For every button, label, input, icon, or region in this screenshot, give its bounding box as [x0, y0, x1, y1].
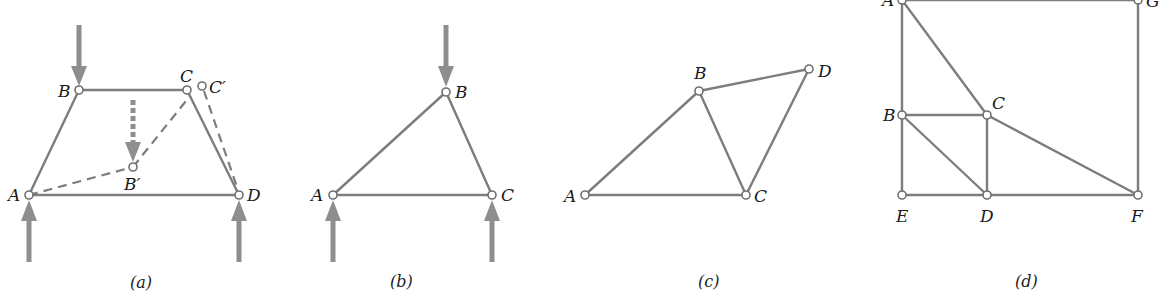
reaction-arrow-up-c — [484, 200, 500, 262]
caption-b: (b) — [390, 272, 413, 291]
member-cd — [187, 90, 239, 195]
joint-d — [805, 65, 813, 73]
panel-c: A B C D (c) — [562, 61, 832, 291]
label-b: B — [693, 63, 707, 83]
joint-f — [1134, 191, 1142, 199]
member-c-prime-d-dashed — [204, 91, 238, 190]
joint-a — [898, 0, 906, 4]
joint-d — [235, 191, 243, 199]
joint-b — [442, 88, 450, 96]
member-bd — [699, 69, 809, 91]
truss-figure: A B C C′ D B′ (a) A B C (b) — [0, 0, 1163, 304]
label-d: D — [979, 206, 994, 226]
label-f: F — [1130, 206, 1144, 226]
joint-b-prime — [129, 163, 137, 171]
joint-d — [983, 191, 991, 199]
label-b: B — [882, 105, 896, 125]
joint-b — [898, 111, 906, 119]
label-g: G — [1146, 0, 1160, 11]
load-arrow-down-b — [71, 25, 87, 86]
joint-c — [488, 191, 496, 199]
label-a: A — [309, 185, 323, 205]
member-bd — [902, 115, 987, 195]
label-a: A — [562, 186, 576, 206]
joint-a — [581, 191, 589, 199]
load-arrow-down-b-prime-dashed — [125, 100, 141, 162]
joint-a — [329, 191, 337, 199]
member-ab — [333, 92, 446, 195]
joint-c — [983, 111, 991, 119]
member-ac — [902, 0, 987, 115]
member-bc — [446, 92, 492, 195]
caption-d: (d) — [1015, 272, 1038, 291]
reaction-arrow-up-a — [325, 200, 341, 262]
member-b-prime-c-dashed — [133, 96, 190, 167]
load-arrow-down-b — [438, 25, 454, 87]
label-c: C — [501, 185, 514, 205]
label-b: B — [57, 81, 71, 101]
label-d: D — [817, 61, 832, 81]
label-c: C — [992, 93, 1005, 113]
label-c-prime: C′ — [209, 77, 226, 97]
member-ab — [29, 90, 79, 195]
label-b: B — [454, 82, 468, 102]
label-b-prime: B′ — [123, 174, 140, 194]
label-d: D — [246, 185, 261, 205]
joint-b — [695, 87, 703, 95]
joint-e — [898, 191, 906, 199]
caption-a: (a) — [130, 273, 152, 292]
label-c: C — [754, 186, 767, 206]
joint-a — [25, 191, 33, 199]
panel-b: A B C (b) — [309, 25, 514, 291]
caption-c: (c) — [698, 272, 719, 291]
member-cd — [746, 69, 809, 195]
panel-d: A G B C E D F (d) — [880, 0, 1160, 291]
reaction-arrow-up-a — [21, 200, 37, 262]
joint-c — [742, 191, 750, 199]
label-a: A — [880, 0, 894, 10]
joint-b — [75, 86, 83, 94]
label-e: E — [895, 206, 909, 226]
member-ab-prime-dashed — [29, 167, 133, 195]
member-cf — [987, 115, 1138, 195]
panel-a: A B C C′ D B′ (a) — [6, 25, 261, 292]
joint-g — [1134, 0, 1142, 4]
member-ab — [585, 91, 699, 195]
reaction-arrow-up-d — [231, 200, 247, 262]
member-bc — [699, 91, 746, 195]
label-c: C — [180, 66, 193, 86]
label-a: A — [6, 185, 20, 205]
joint-c — [183, 86, 191, 94]
joint-c-prime — [198, 82, 206, 90]
